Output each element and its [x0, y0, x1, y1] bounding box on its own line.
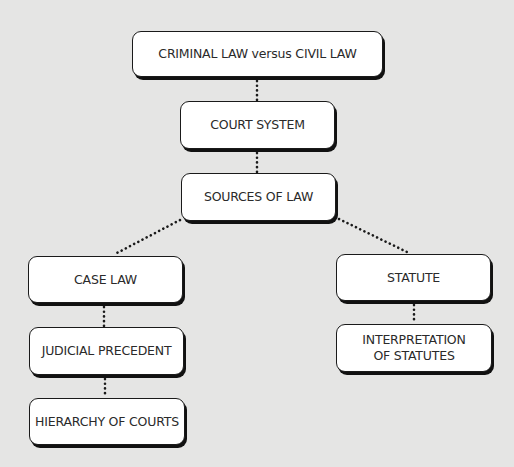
- node-case-law: CASE LAW: [28, 256, 183, 303]
- diagram-canvas: CRIMINAL LAW versus CIVIL LAW COURT SYST…: [0, 0, 514, 467]
- node-label: JUDICIAL PRECEDENT: [42, 343, 172, 359]
- node-label: CASE LAW: [74, 272, 137, 288]
- node-statute: STATUTE: [336, 254, 491, 301]
- connector-sources-to-caselaw: [115, 220, 180, 254]
- node-interpretation-of-statutes: INTERPRETATION OF STATUTES: [336, 324, 492, 372]
- node-label: STATUTE: [387, 270, 440, 286]
- node-sources-of-law: SOURCES OF LAW: [181, 173, 336, 221]
- node-hierarchy-of-courts: HIERARCHY OF COURTS: [29, 398, 185, 445]
- node-judicial-precedent: JUDICIAL PRECEDENT: [29, 327, 184, 375]
- node-label: CRIMINAL LAW versus CIVIL LAW: [158, 46, 356, 62]
- node-criminal-vs-civil-law: CRIMINAL LAW versus CIVIL LAW: [132, 31, 383, 77]
- node-label: HIERARCHY OF COURTS: [35, 414, 179, 430]
- node-court-system: COURT SYSTEM: [180, 101, 335, 149]
- node-label: SOURCES OF LAW: [204, 189, 313, 205]
- node-label: COURT SYSTEM: [210, 117, 305, 133]
- node-label-line2: OF STATUTES: [373, 348, 454, 364]
- node-label-line1: INTERPRETATION: [362, 332, 465, 348]
- connector-sources-to-statute: [339, 219, 407, 252]
